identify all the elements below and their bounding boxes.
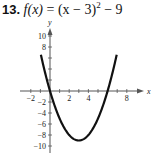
x-tick-label: −2	[27, 94, 36, 103]
parabola-curve	[41, 55, 117, 141]
x-tick-label: 2	[67, 94, 71, 103]
x-tick-label: 8	[125, 94, 129, 103]
y-tick-label: 8	[42, 43, 46, 52]
y-tick-label: 10	[38, 32, 46, 41]
y-axis-label: y	[47, 18, 52, 27]
y-tick-label: −2	[37, 98, 46, 107]
parabola-chart: xy −2248108−2−4−6−8−10	[0, 0, 156, 154]
y-tick-label: −10	[33, 142, 46, 151]
y-tick-label: −6	[37, 120, 46, 129]
x-axis-arrow-icon	[137, 89, 144, 94]
x-axis-label: x	[146, 87, 151, 96]
y-tick-label: −8	[37, 131, 46, 140]
x-tick-label: 4	[86, 94, 90, 103]
y-tick-label: −4	[37, 109, 46, 118]
y-axis-arrow-icon	[48, 28, 53, 35]
